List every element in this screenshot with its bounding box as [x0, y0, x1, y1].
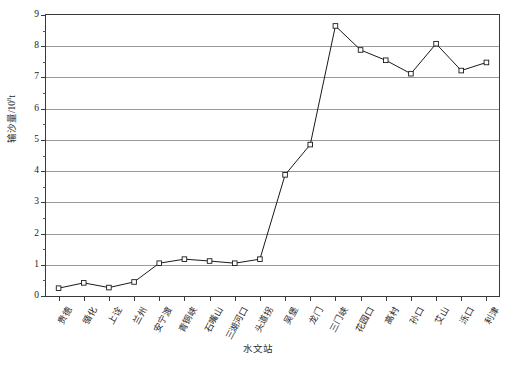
- data-point-marker: [56, 286, 61, 291]
- y-axis-tick-label: 6: [19, 104, 39, 114]
- y-axis-title: 输沙量/108t: [4, 76, 18, 162]
- x-axis-tick-label: 三湖河口: [222, 304, 250, 342]
- y-axis-tick-label: 9: [19, 10, 39, 20]
- x-axis-tick-label: 泺口: [457, 304, 477, 326]
- x-axis-tick: [210, 296, 211, 301]
- data-point-marker: [283, 173, 288, 178]
- x-axis-tick: [235, 296, 236, 301]
- x-axis-tick-label: 安宁渡: [151, 304, 175, 334]
- data-point-marker: [308, 142, 313, 147]
- data-point-marker: [132, 280, 137, 285]
- y-axis-title-unit: t: [7, 95, 17, 98]
- y-axis-tick-label: 8: [19, 41, 39, 51]
- y-axis-tick-label: 3: [19, 198, 39, 208]
- y-axis-tick: [41, 296, 46, 297]
- y-axis-tick-label: 0: [19, 291, 39, 301]
- data-series-layer: [46, 15, 499, 296]
- data-point-marker: [232, 261, 237, 266]
- x-axis-tick: [109, 296, 110, 301]
- series-line: [59, 26, 487, 288]
- x-axis-tick: [386, 296, 387, 301]
- x-axis-tick-label: 石嘴山: [201, 304, 225, 334]
- y-axis-tick-label: 1: [19, 260, 39, 270]
- x-axis-tick-label: 兰州: [130, 304, 150, 326]
- x-axis-tick: [486, 296, 487, 301]
- x-axis-tick-label: 龙门: [306, 304, 326, 326]
- x-axis-tick: [361, 296, 362, 301]
- x-axis-tick: [436, 296, 437, 301]
- x-axis-tick: [335, 296, 336, 301]
- x-axis-tick: [260, 296, 261, 301]
- data-point-marker: [434, 41, 439, 46]
- data-point-marker: [81, 281, 86, 286]
- x-axis-tick: [310, 296, 311, 301]
- x-axis-tick: [84, 296, 85, 301]
- y-axis-tick-label: 7: [19, 73, 39, 83]
- y-axis-title-main: 输沙量/10: [7, 101, 17, 143]
- x-axis-tick-label: 孙口: [406, 304, 426, 326]
- y-axis-tick-label: 5: [19, 135, 39, 145]
- x-axis-tick-label: 循化: [79, 304, 99, 326]
- x-axis-tick-label: 高村: [381, 304, 401, 326]
- x-axis-title: 水文站: [0, 341, 515, 355]
- x-axis-tick: [411, 296, 412, 301]
- x-axis-tick: [59, 296, 60, 301]
- data-point-marker: [333, 24, 338, 29]
- x-axis-tick-label: 上诠: [104, 304, 124, 326]
- x-axis-tick-label: 利津: [482, 304, 502, 326]
- x-axis-tick-label: 贵德: [54, 304, 74, 326]
- x-axis-tick: [461, 296, 462, 301]
- x-axis-tick-label: 青铜峡: [176, 304, 200, 334]
- data-point-marker: [207, 259, 212, 264]
- data-point-marker: [358, 48, 363, 53]
- x-axis-tick: [134, 296, 135, 301]
- data-point-marker: [383, 58, 388, 63]
- data-point-marker: [484, 60, 489, 65]
- x-axis-tick: [184, 296, 185, 301]
- x-axis-tick-label: 三门峡: [327, 304, 351, 334]
- x-axis-tick-label: 花园口: [352, 304, 376, 334]
- y-axis-title-exponent: 8: [5, 98, 12, 101]
- data-point-marker: [459, 68, 464, 73]
- x-axis-tick-label: 艾山: [432, 304, 452, 326]
- y-axis-tick-label: 2: [19, 229, 39, 239]
- sediment-load-line-chart: 输沙量/108t 0123456789 贵德循化上诠兰州安宁渡青铜峡石嘴山三湖河…: [0, 0, 515, 366]
- data-point-marker: [107, 285, 112, 290]
- plot-area: 0123456789 贵德循化上诠兰州安宁渡青铜峡石嘴山三湖河口头道拐吴堡龙门三…: [45, 14, 500, 297]
- x-axis-tick: [159, 296, 160, 301]
- x-axis-tick-label: 头道拐: [251, 304, 275, 334]
- data-point-marker: [409, 71, 414, 76]
- data-point-marker: [258, 257, 263, 262]
- x-axis-tick: [285, 296, 286, 301]
- x-axis-tick-label: 吴堡: [281, 304, 301, 326]
- y-axis-tick-label: 4: [19, 166, 39, 176]
- data-point-marker: [157, 261, 162, 266]
- data-point-marker: [182, 257, 187, 262]
